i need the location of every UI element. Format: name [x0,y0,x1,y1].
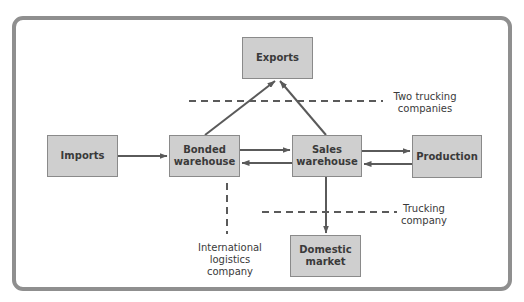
arrow-bonded-exports [205,81,275,135]
node-domestic-market: Domestic market [290,235,361,277]
arrow-sales-exports [280,81,326,135]
label-international-logistics-company: International logistics company [192,242,268,278]
label-trucking-company: Trucking company [398,203,450,227]
node-bonded-warehouse: Bonded warehouse [169,135,240,177]
node-production: Production [412,135,482,178]
node-imports: Imports [47,135,118,177]
label-two-trucking-companies: Two trucking companies [385,91,465,115]
node-sales-warehouse: Sales warehouse [292,135,362,177]
node-exports: Exports [242,37,313,79]
